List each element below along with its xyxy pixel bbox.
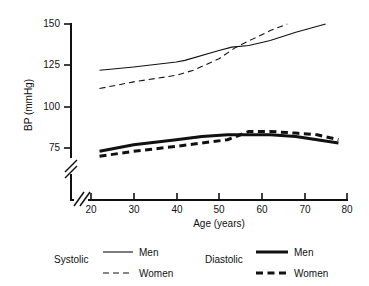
bp-vs-age-chart: 150 125 100 75 20 30 40 50 60 70 80 Age … xyxy=(0,0,369,286)
legend-label-systolic-women: Women xyxy=(139,268,173,279)
x-tick-label-50: 50 xyxy=(213,204,225,215)
x-tick-label-40: 40 xyxy=(171,204,183,215)
legend-group-title-systolic: Systolic xyxy=(54,254,88,265)
legend-label-systolic-men: Men xyxy=(139,247,158,258)
y-tick-label-150: 150 xyxy=(43,18,60,29)
y-tick-label-125: 125 xyxy=(43,59,60,70)
series-systolic-women xyxy=(100,24,288,88)
legend-group-title-diastolic: Diastolic xyxy=(205,254,243,265)
legend-label-diastolic-women: Women xyxy=(294,268,328,279)
chart-canvas: 150 125 100 75 20 30 40 50 60 70 80 Age … xyxy=(0,0,369,286)
series-systolic-men xyxy=(100,24,326,70)
x-tick-label-20: 20 xyxy=(85,204,97,215)
y-tick-label-75: 75 xyxy=(49,142,61,153)
y-tick-label-100: 100 xyxy=(43,101,60,112)
x-tick-label-70: 70 xyxy=(299,204,311,215)
x-axis-title: Age (years) xyxy=(193,218,245,229)
series-diastolic-men xyxy=(100,135,339,152)
y-axis-title: BP (mmHg) xyxy=(23,79,34,131)
x-tick-label-80: 80 xyxy=(341,204,353,215)
legend-label-diastolic-men: Men xyxy=(294,247,313,258)
x-tick-label-60: 60 xyxy=(256,204,268,215)
x-tick-label-30: 30 xyxy=(128,204,140,215)
